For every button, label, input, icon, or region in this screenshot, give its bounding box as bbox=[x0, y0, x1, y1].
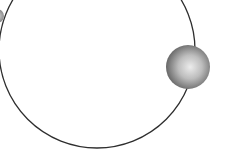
orbit-path bbox=[0, 0, 195, 148]
orbit-diagram bbox=[0, 0, 229, 152]
orbiting-sphere bbox=[166, 45, 210, 89]
